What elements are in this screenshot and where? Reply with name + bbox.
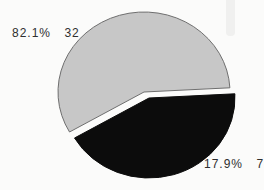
minor-slice-percent: 17.9% [204, 157, 243, 171]
slice-label-major: 82.1% 32 [12, 27, 80, 40]
major-slice-percent: 82.1% [12, 26, 51, 40]
major-slice-count: 32 [64, 26, 79, 40]
pie-chart-figure: 82.1% 32 17.9% 7 [0, 0, 264, 190]
slice-label-minor: 17.9% 7 [204, 158, 264, 171]
minor-slice-count: 7 [256, 157, 264, 171]
